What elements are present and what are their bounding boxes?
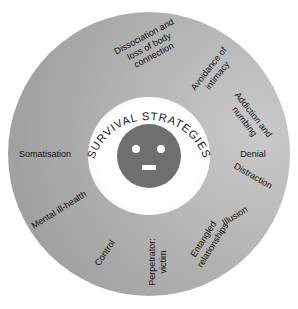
- survival-strategies-diagram: SURVIVAL STRATEGIES Avoidance of intimac…: [0, 0, 298, 309]
- face-left-eye-icon: [132, 145, 140, 153]
- spoke-label-perpetrator-victim: Perpetrator: victim: [146, 238, 167, 286]
- wheel-stage: SURVIVAL STRATEGIES Avoidance of intimac…: [0, 0, 298, 309]
- face-mouth-icon: [142, 165, 156, 170]
- central-face: [117, 124, 181, 188]
- spoke-label-denial: Denial: [240, 149, 266, 160]
- face-right-eye-icon: [157, 145, 165, 153]
- spoke-label-somatisation: Somatisation: [19, 149, 71, 160]
